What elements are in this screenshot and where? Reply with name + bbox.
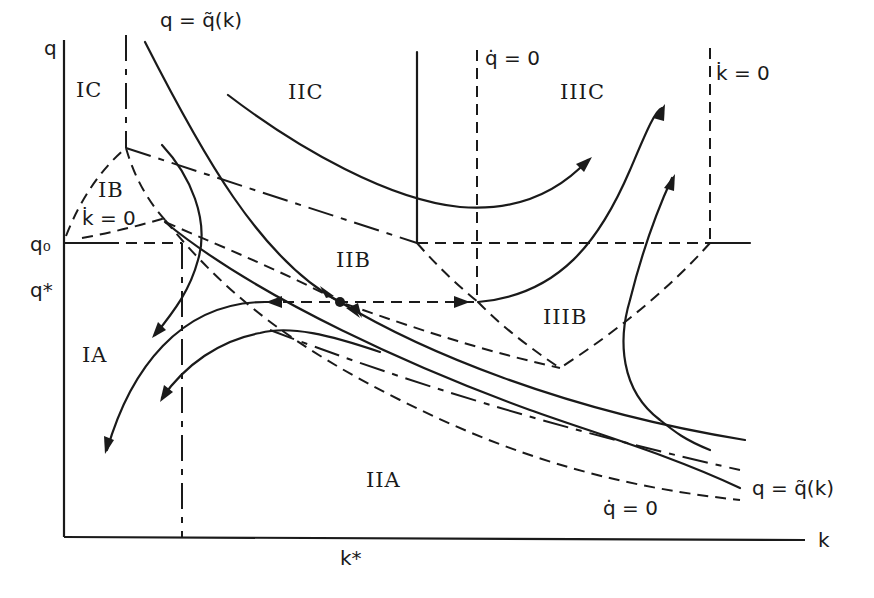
arrow-left-icon [266,296,282,308]
region-II-lower-boundary [417,243,478,302]
region-IIB-label: IIB [336,250,371,271]
k-axis-label: k [818,530,830,550]
region-IIIC-label: IIIC [560,82,605,103]
trajectory-IIIB [624,300,710,450]
region-IIC-label: IIC [288,82,324,103]
kdot-top-label: k̇ = 0 [716,63,770,83]
region-IC-label: IC [76,80,102,101]
arrow-head-icon [653,104,665,121]
trajectory-IIIC-2 [630,178,672,300]
dashed-arm-lower [165,220,740,500]
arrow-right-icon [454,296,470,308]
region-IIA-label: IIA [366,470,401,491]
region-IIIB-label: IIIB [543,307,587,328]
phase-diagram [0,0,874,598]
qstar-label: q* [30,280,53,300]
region-IA-label: IA [82,345,107,366]
trajectory-IIC [228,95,588,208]
region-IB-label: IB [98,180,124,201]
qtilde-right-label: q = q̃(k) [752,478,834,498]
arrow-head-icon [104,436,114,454]
qdot-top-label: q̇ = 0 [485,48,540,68]
kstar-label: k* [340,548,362,568]
kdot-left-label: k̇ = 0 [82,208,136,228]
k-axis [64,537,805,540]
qtilde-lower-curve [165,222,740,488]
qtilde-top-label: q = q̃(k) [160,10,242,30]
upper-boundary-line [126,148,417,243]
qtilde-curve [145,42,745,440]
q0-label: q₀ [30,234,51,254]
qdot-bottom-label: q̇ = 0 [603,498,658,518]
equilibrium-point [335,297,345,307]
trajectory-IA-upper [107,302,265,450]
arrow-head-icon [664,174,675,191]
q-axis-label: q [44,38,57,58]
trajectory-IB [155,145,202,335]
trajectory-IA-lower [162,330,380,398]
